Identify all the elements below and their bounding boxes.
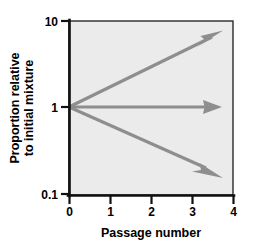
y-tick-label-0.1: 0.1 xyxy=(41,188,58,202)
chart-figure: 10 1 0.1 0 1 2 3 4 Passage number Propor… xyxy=(0,0,253,243)
x-axis-title: Passage number xyxy=(101,226,201,240)
x-tick-label-1: 1 xyxy=(107,205,114,219)
y-axis-title-line1: Proportion relative xyxy=(8,52,22,163)
y-tick-label-10: 10 xyxy=(45,15,59,29)
y-tick-label-1: 1 xyxy=(51,101,58,115)
proportion-vs-passage-chart: 10 1 0.1 0 1 2 3 4 Passage number Propor… xyxy=(0,0,253,243)
x-tick-label-0: 0 xyxy=(66,205,73,219)
y-axis-title-line2: to initial mixture xyxy=(22,60,36,157)
x-tick-label-3: 3 xyxy=(189,205,196,219)
x-tick-label-4: 4 xyxy=(230,205,237,219)
x-tick-label-2: 2 xyxy=(148,205,155,219)
